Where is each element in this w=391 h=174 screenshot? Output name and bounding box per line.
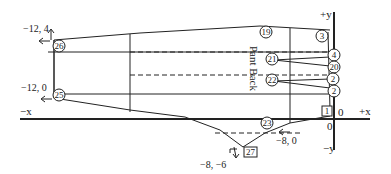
coord-bottom-point: −8, −6: [200, 159, 226, 170]
svg-text:26: 26: [55, 41, 65, 51]
svg-text:1: 1: [325, 106, 330, 116]
svg-text:2: 2: [331, 74, 336, 84]
point-26: 26: [53, 40, 65, 52]
arrow-left-icon: [39, 38, 50, 44]
dart-22-top: [274, 79, 330, 81]
svg-text:21: 21: [268, 54, 277, 64]
pos-y-label: +y: [320, 8, 332, 20]
point-3: 3: [316, 30, 328, 42]
pos-x-label: +x: [359, 105, 371, 117]
svg-text:20: 20: [330, 62, 340, 72]
svg-text:25: 25: [55, 90, 65, 100]
point-23: 23: [261, 117, 273, 129]
point-1-box: 1: [322, 106, 332, 116]
svg-text:27: 27: [246, 147, 256, 157]
coord-bottom-right: −8, 0: [276, 135, 297, 146]
point-4: 4: [328, 49, 340, 61]
point-22: 22: [266, 74, 278, 86]
coord-mid-left: −12, 0: [21, 82, 47, 93]
waist-curve: [54, 26, 330, 40]
dart-22-bottom: [274, 81, 330, 88]
neg-y-label: −y: [323, 142, 335, 154]
svg-text:22: 22: [268, 75, 277, 85]
svg-text:2: 2: [332, 86, 337, 96]
svg-text:3: 3: [320, 31, 325, 41]
point-20: 20: [328, 61, 340, 73]
coord-top-left: −12, 4: [23, 23, 49, 34]
pant-back-pattern-diagram: −x +x +y −y 0 0 26 25 19 3 21: [0, 0, 391, 174]
point-27-box: 27: [244, 147, 257, 157]
point-25: 25: [53, 89, 65, 101]
svg-text:23: 23: [263, 118, 273, 128]
dart-21-bottom: [274, 60, 330, 66]
point-2b: 2: [328, 85, 340, 97]
arrow-up-icon: [48, 29, 54, 40]
origin-y-label: 0: [327, 120, 333, 132]
arrow-left-icon-2: [41, 96, 52, 102]
arrow-down-left-icon: [230, 147, 239, 158]
svg-text:4: 4: [332, 50, 337, 60]
neg-x-label: −x: [20, 105, 32, 117]
point-19: 19: [260, 26, 272, 38]
origin-x-label: 0: [338, 106, 344, 118]
pattern-title: Pant Back: [248, 46, 260, 91]
svg-text:19: 19: [262, 27, 272, 37]
dart-21-top: [274, 57, 330, 60]
point-21: 21: [266, 53, 278, 65]
point-2a: 2: [327, 73, 339, 85]
